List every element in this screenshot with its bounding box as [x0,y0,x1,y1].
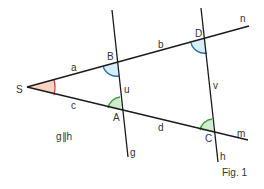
parallel-note: g∥h [56,131,72,143]
figure-caption: Fig. 1 [222,167,247,178]
label-segment-d: d [158,122,164,133]
label-point-d: D [195,28,202,39]
label-line-m: m [237,128,245,139]
label-segment-c: c [71,100,76,111]
label-point-s: S [16,84,23,95]
label-point-c: C [205,133,212,144]
label-line-g: g [130,147,136,158]
label-segment-a: a [71,62,77,73]
label-line-h: h [220,151,226,162]
label-segment-u: u [124,84,130,95]
label-point-a: A [113,112,120,123]
geometry-figure: S B D A C a b c d u v n m g h g∥h Fig. 1 [0,0,264,189]
label-point-b: B [107,51,114,62]
ray-n [27,26,249,87]
label-segment-v: v [213,80,218,91]
label-segment-b: b [158,39,164,50]
label-line-n: n [240,13,246,24]
